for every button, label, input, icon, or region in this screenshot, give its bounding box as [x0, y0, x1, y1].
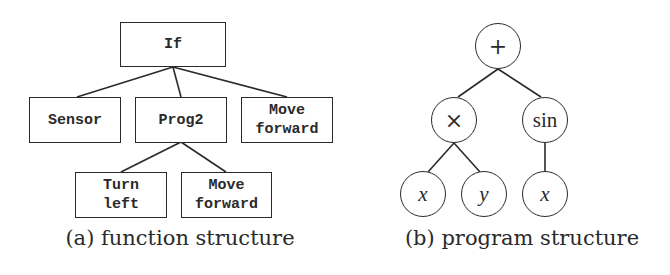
node-move-forward-bottom: Move forward	[181, 172, 272, 218]
node-sin: sin	[522, 97, 568, 143]
edge-prog2-turnleft	[121, 142, 181, 172]
edge-if-moveforward	[173, 67, 287, 97]
node-times: ×	[431, 97, 477, 143]
node-y: y	[461, 171, 507, 217]
caption-b: (b) program structure	[382, 226, 662, 250]
node-sensor: Sensor	[29, 97, 121, 143]
node-prog2: Prog2	[135, 97, 227, 143]
node-x-left: x	[400, 171, 446, 217]
edge-plus-sin	[498, 69, 541, 97]
edge-times-y	[454, 143, 480, 172]
node-if: If	[120, 22, 226, 67]
edge-prog2-moveforward	[181, 142, 226, 172]
node-move-forward-top: Move forward	[241, 97, 333, 143]
node-x-right: x	[522, 171, 568, 217]
node-plus: +	[475, 23, 521, 69]
edge-if-prog2	[173, 67, 181, 97]
edge-if-sensor	[77, 67, 173, 97]
caption-a: (a) function structure	[40, 226, 320, 250]
node-turn-left: Turn left	[75, 172, 167, 218]
edge-times-x	[428, 143, 454, 172]
edge-plus-times	[458, 69, 498, 97]
figure: If Sensor Prog2 Move forward Turn left M…	[0, 0, 670, 275]
